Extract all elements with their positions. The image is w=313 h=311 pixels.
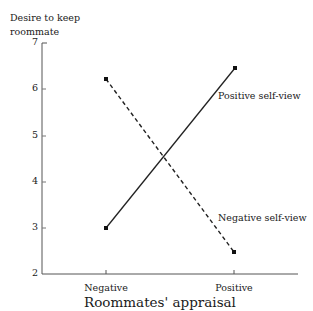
x-tick-label-negative: Negative	[84, 282, 128, 293]
plot-area	[0, 0, 313, 311]
data-point-negative-positive	[232, 250, 236, 254]
series-line-negative-self-view	[106, 79, 234, 252]
series-label-positive-self-view: Positive self-view	[218, 90, 301, 101]
x-axis-title: Roommates' appraisal	[84, 294, 236, 310]
series-line-positive-self-view	[106, 68, 235, 228]
data-point-negative-negative	[104, 77, 108, 81]
data-point-positive-positive	[233, 66, 237, 70]
x-tick-label-positive: Positive	[215, 282, 253, 293]
series-label-negative-self-view: Negative self-view	[218, 212, 307, 223]
data-point-positive-negative	[104, 226, 108, 230]
